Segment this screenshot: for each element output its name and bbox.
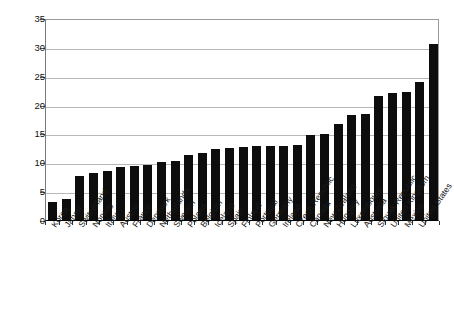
y-axis-tick-label: 30 (9, 43, 45, 52)
y-axis-labels: 05101520253035 (0, 0, 45, 321)
y-axis-tick-label: 35 (9, 14, 45, 23)
y-axis-tick-label: 0 (9, 216, 45, 225)
y-axis-tick-label: 10 (9, 158, 45, 167)
y-axis-tick-label: 5 (9, 187, 45, 196)
x-axis-labels: KoreaJapanSwitzerlandNorwayItalyAustriaF… (45, 224, 450, 321)
y-axis-tick-label: 25 (9, 72, 45, 81)
y-axis-tick-label: 20 (9, 101, 45, 110)
y-axis-tick-label: 15 (9, 129, 45, 138)
